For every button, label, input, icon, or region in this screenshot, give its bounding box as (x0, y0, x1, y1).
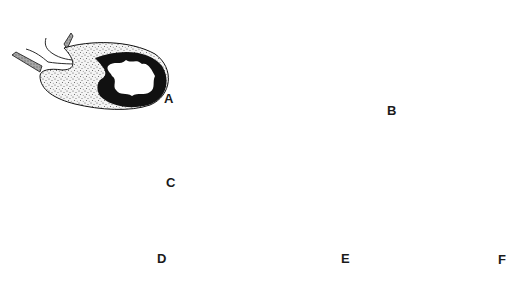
panel-label-d: D (157, 252, 166, 265)
figure-canvas (0, 0, 517, 289)
panel-label-c: C (166, 176, 175, 189)
panel-a (12, 33, 168, 109)
panel-label-b: B (387, 104, 396, 117)
panel-label-e: E (341, 252, 350, 265)
panel-label-a: A (164, 92, 173, 105)
panel-label-f: F (498, 253, 506, 266)
panel-a-duct-left (12, 52, 42, 72)
